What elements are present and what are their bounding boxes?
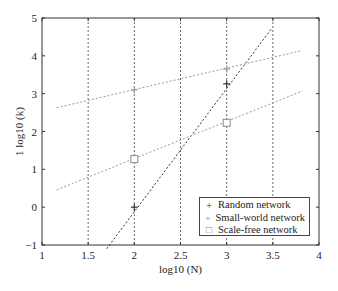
square-marker-icon: [131, 156, 138, 163]
x-tick-label: 3: [224, 249, 230, 261]
x-tick-label: 2.5: [174, 249, 188, 261]
plus-marker-icon: [223, 80, 230, 87]
plus-marker-icon: +: [204, 199, 214, 212]
fit-line: [57, 51, 301, 108]
x-tick-label: 2: [132, 249, 138, 261]
x-tick-label: 1.5: [81, 249, 95, 261]
y-tick-label: 2: [32, 126, 38, 138]
legend-label: Random network: [218, 199, 291, 212]
y-tick-label: 0: [32, 201, 38, 213]
x-tick-label: 4: [316, 249, 322, 261]
x-tick-label: 1: [39, 249, 45, 261]
x-tick-label: 3.5: [266, 249, 280, 261]
legend-item-small-world: + Small-world network: [204, 212, 305, 225]
y-tick-label: 4: [32, 50, 38, 62]
y-tick-label: −1: [25, 239, 37, 251]
plus-marker-icon: [131, 204, 138, 211]
square-marker-icon: □: [204, 224, 214, 237]
legend-item-scale-free: □ Scale-free network: [204, 224, 305, 237]
y-tick-label: 3: [32, 88, 38, 100]
legend-label: Small-world network: [215, 212, 305, 225]
y-axis-label: 1 log10 (k): [13, 107, 26, 156]
y-tick-label: 1: [32, 163, 38, 175]
legend-label: Scale-free network: [218, 224, 298, 237]
fit-line: [57, 91, 303, 190]
x-axis-label: log10 (N): [159, 263, 202, 276]
square-marker-icon: [223, 119, 230, 126]
legend-item-random: + Random network: [204, 199, 305, 212]
chart-canvas: 11.522.533.54−1012345 log10 (N) 1 log10 …: [0, 0, 338, 291]
y-tick-label: 5: [32, 12, 38, 24]
plus-marker-icon: [131, 86, 138, 93]
plus-marker-icon: [223, 66, 230, 73]
plus-marker-icon: +: [204, 212, 211, 225]
legend: + Random network + Small-world network □…: [199, 197, 310, 236]
